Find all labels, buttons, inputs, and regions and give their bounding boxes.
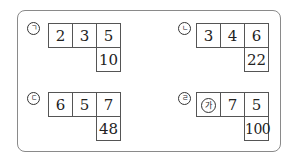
- number-cell: 6: [244, 23, 269, 48]
- number-cell: 6: [48, 92, 73, 117]
- circled-ga-unknown: 가: [201, 98, 216, 113]
- number-cell: 5: [244, 92, 269, 117]
- number-cell: 5: [96, 23, 121, 48]
- circled-digeut-label: ㄷ: [27, 92, 40, 105]
- circled-nieun-label: ㄴ: [178, 22, 191, 35]
- number-cell: 3: [72, 23, 97, 48]
- number-cell: 4: [220, 23, 245, 48]
- result-cell: 48: [96, 116, 121, 141]
- number-cell: 5: [72, 92, 97, 117]
- result-cell: 22: [244, 47, 269, 72]
- number-cell: 2: [48, 23, 73, 48]
- number-cell: 3: [196, 23, 221, 48]
- unknown-cell: 가: [196, 92, 221, 117]
- circled-rieul-label: ㄹ: [178, 92, 191, 105]
- result-cell: 10: [96, 47, 121, 72]
- number-cell: 7: [220, 92, 245, 117]
- result-cell: 100: [244, 116, 269, 141]
- number-cell: 7: [96, 92, 121, 117]
- circled-giyeok-label: ㄱ: [27, 22, 40, 35]
